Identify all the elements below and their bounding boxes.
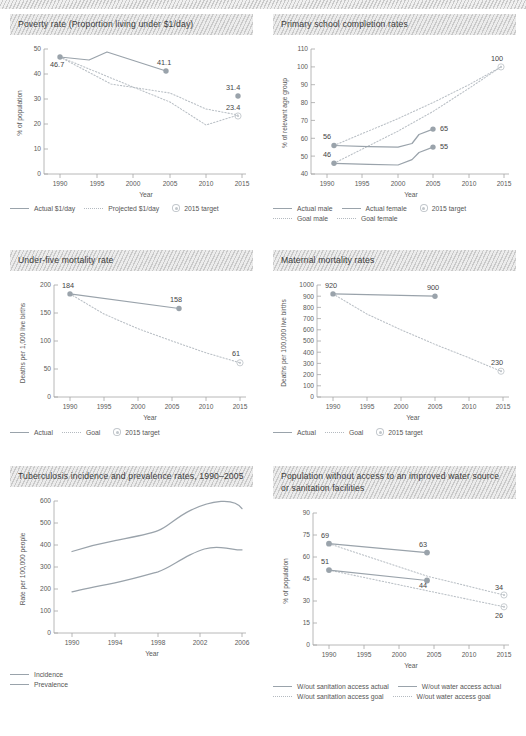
x-axis-title: Year [139,191,153,198]
svg-text:70: 70 [301,117,309,124]
solid-line-icon [273,208,292,209]
svg-text:100: 100 [40,337,51,344]
y-axis: 0 10 20 30 40 50 % of population [16,45,48,177]
svg-text:2015: 2015 [235,180,250,187]
svg-text:0: 0 [37,170,41,177]
svg-text:230: 230 [491,358,503,367]
svg-text:1995: 1995 [97,403,112,410]
dashed-line-icon [273,696,292,697]
dashed-line-icon [84,208,103,209]
svg-text:2010: 2010 [462,651,477,658]
svg-text:2000: 2000 [391,180,406,187]
svg-text:51: 51 [321,557,329,566]
svg-text:200: 200 [40,281,51,288]
svg-text:300: 300 [303,360,314,367]
legend-poverty: Actual $1/day Projected $1/day 2015 targ… [10,204,253,212]
y-axis-title: % of relevant age group [281,78,289,148]
y-axis-title: % of population [282,558,290,604]
legend-under-five: Actual Goal 2015 target [10,428,253,436]
legend-item-actual: Actual $1/day [10,205,75,212]
svg-text:46: 46 [323,150,331,159]
dashed-line-icon [337,218,356,219]
legend-item-sanitation-goal: W/out sanitation access goal [273,693,384,700]
y-axis-title: Rate per 100,000 people [19,532,27,605]
panel-tuberculosis: Tuberculosis incidence and prevalence ra… [0,466,263,736]
legend-item-water-goal: W/out water access goal [393,693,491,700]
svg-text:1990: 1990 [326,403,341,410]
svg-text:44: 44 [419,581,427,590]
svg-text:30: 30 [34,95,42,102]
series-group [333,294,501,371]
legend-item-actual: Actual [273,429,316,436]
svg-text:500: 500 [40,519,51,526]
y-axis: 40 50 60 70 80 90 100 110 % of relevant … [281,45,315,177]
primary-school-svg: 40 50 60 70 80 90 100 110 % of relevant … [273,41,516,201]
poverty-svg: 0 10 20 30 40 50 % of population 1990 19… [10,41,253,201]
svg-text:2000: 2000 [394,403,409,410]
svg-text:600: 600 [303,326,314,333]
cut-off-header-band [0,0,526,9]
svg-text:90: 90 [301,81,309,88]
series-group [72,501,242,592]
svg-text:1998: 1998 [151,639,166,646]
chart-tuberculosis: 0 100 200 300 400 500 600 Rate per 100,0… [10,493,253,688]
series-group [329,544,504,607]
svg-text:20: 20 [34,120,42,127]
legend-item-actual: Actual [10,429,53,436]
svg-text:2010: 2010 [199,403,214,410]
data-markers [67,291,243,366]
svg-text:100: 100 [491,54,503,63]
svg-text:40: 40 [301,170,309,177]
svg-text:700: 700 [303,315,314,322]
series-group [334,67,501,165]
svg-text:2005: 2005 [426,180,441,187]
data-labels: 184 158 61 [62,281,240,358]
svg-text:1990: 1990 [322,651,337,658]
svg-text:1994: 1994 [108,639,123,646]
svg-text:150: 150 [40,309,51,316]
data-labels: 46.7 41.1 31.4 23.4 [50,58,240,112]
svg-text:110: 110 [297,45,308,52]
y-axis-title: Deaths per 100,000 live births [280,298,288,386]
panel-title-under-five: Under-five mortality rate [10,250,253,271]
panel-title-poverty: Poverty rate (Proportion living under $1… [10,14,253,35]
tuberculosis-svg: 0 100 200 300 400 500 600 Rate per 100,0… [10,493,253,668]
svg-text:0: 0 [47,393,51,400]
svg-text:2005: 2005 [165,403,180,410]
svg-text:2015: 2015 [497,651,512,658]
target-dot-icon [113,428,121,436]
legend-item-target: 2015 target [168,204,218,212]
legend-item-goal-male: Goal male [273,215,328,222]
svg-text:920: 920 [325,281,337,290]
svg-text:184: 184 [62,281,74,290]
series-group [60,52,238,125]
legend-item-projected: Projected $1/day [84,205,159,212]
panel-title-tuberculosis: Tuberculosis incidence and prevalence ra… [10,466,253,487]
data-markers [57,54,241,119]
x-axis: 1990 1995 2000 2005 2010 2015 Year [44,174,250,198]
svg-text:0: 0 [310,393,314,400]
svg-text:2005: 2005 [427,651,442,658]
svg-text:55: 55 [440,142,448,151]
svg-text:45: 45 [303,575,311,582]
svg-text:800: 800 [303,304,314,311]
svg-text:60: 60 [301,135,309,142]
legend-item-actual-male: Actual male [273,205,333,212]
panel-poverty: Poverty rate (Proportion living under $1… [0,14,263,250]
legend-item-target: 2015 target [109,428,159,436]
svg-text:23.4: 23.4 [226,103,240,112]
dashed-line-icon [325,432,344,433]
svg-text:200: 200 [303,371,314,378]
y-axis-title: Deaths per 1,000 live births [19,302,27,383]
svg-text:1990: 1990 [63,403,78,410]
svg-text:50: 50 [301,153,309,160]
svg-text:300: 300 [40,563,51,570]
data-labels: 56 46 65 55 100 [323,54,503,159]
chart-primary-school: 40 50 60 70 80 90 100 110 % of relevant … [273,41,516,222]
data-labels: 69 63 51 44 34 26 [321,531,503,620]
svg-text:2005: 2005 [163,180,178,187]
panel-under-five: Under-five mortality rate 0 50 100 150 2… [0,250,263,466]
svg-text:400: 400 [40,541,51,548]
x-axis-title: Year [404,191,418,198]
svg-text:600: 600 [40,497,51,504]
